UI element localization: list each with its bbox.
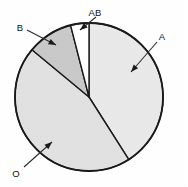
pie-slice-label-ab: AB	[88, 7, 101, 18]
pie-chart-svg: AOBAB	[0, 0, 188, 187]
pie-chart-figure: AOBAB	[0, 0, 188, 187]
pie-slice-label-o: O	[12, 168, 20, 179]
pie-slice-label-b: B	[17, 22, 24, 33]
pie-slice-label-a: A	[159, 31, 166, 42]
